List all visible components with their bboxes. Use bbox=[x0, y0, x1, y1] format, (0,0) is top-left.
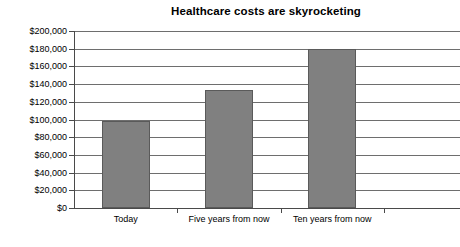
x-axis-category-label: Ten years from now bbox=[281, 214, 384, 224]
x-axis-tick bbox=[281, 208, 282, 213]
y-axis-tick bbox=[69, 84, 75, 85]
chart-title: Healthcare costs are skyrocketing bbox=[72, 5, 460, 17]
y-axis-labels: $0$20,000$40,000$60,000$80,000$100,000$1… bbox=[0, 31, 67, 208]
bar-chart: Healthcare costs are skyrocketing $0$20,… bbox=[0, 0, 460, 247]
y-axis-tick bbox=[69, 49, 75, 50]
y-axis-tick-label: $80,000 bbox=[1, 132, 67, 142]
y-axis-tick bbox=[69, 173, 75, 174]
y-axis-tick-label: $40,000 bbox=[1, 168, 67, 178]
x-axis-tick bbox=[384, 208, 385, 213]
y-axis-tick bbox=[69, 137, 75, 138]
y-axis-tick bbox=[69, 190, 75, 191]
y-axis-tick-label: $200,000 bbox=[1, 26, 67, 36]
y-axis-tick-label: $180,000 bbox=[1, 44, 67, 54]
y-axis-tick-label: $160,000 bbox=[1, 61, 67, 71]
y-axis-tick bbox=[69, 208, 75, 209]
bar bbox=[308, 49, 356, 208]
y-axis-tick bbox=[69, 66, 75, 67]
y-axis-tick bbox=[69, 155, 75, 156]
gridline bbox=[74, 49, 460, 50]
bar bbox=[102, 121, 150, 208]
y-axis-tick-label: $20,000 bbox=[1, 185, 67, 195]
y-axis-tick bbox=[69, 102, 75, 103]
y-axis-tick-label: $60,000 bbox=[1, 150, 67, 160]
gridline bbox=[74, 66, 460, 67]
bar bbox=[205, 90, 253, 208]
gridline bbox=[74, 84, 460, 85]
y-axis-tick-label: $0 bbox=[1, 203, 67, 213]
x-axis-category-label: Today bbox=[74, 214, 177, 224]
x-axis-tick bbox=[177, 208, 178, 213]
x-axis-category-label: Five years from now bbox=[177, 214, 280, 224]
gridline bbox=[74, 102, 460, 103]
gridline bbox=[74, 208, 460, 209]
y-axis-tick-label: $140,000 bbox=[1, 79, 67, 89]
y-axis-tick-label: $100,000 bbox=[1, 115, 67, 125]
y-axis-tick bbox=[69, 31, 75, 32]
gridline bbox=[74, 31, 460, 32]
y-axis-tick-label: $120,000 bbox=[1, 97, 67, 107]
y-axis-tick bbox=[69, 120, 75, 121]
